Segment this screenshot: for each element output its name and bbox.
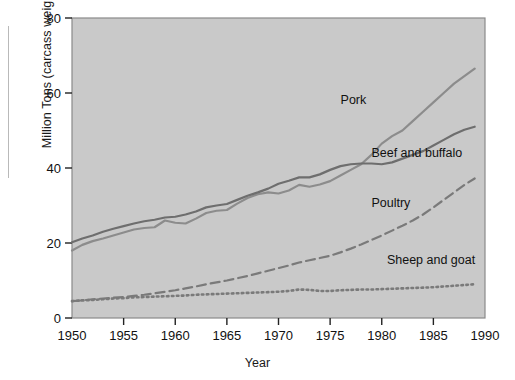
series-label-0: Pork <box>341 93 367 107</box>
y-tick-label: 60 <box>47 86 61 101</box>
y-tick-label: 80 <box>47 11 61 26</box>
y-tick-label: 20 <box>47 236 61 251</box>
x-tick-label: 1970 <box>264 328 293 343</box>
y-tick-label: 0 <box>54 311 61 326</box>
plot-background <box>72 18 485 318</box>
x-tick-label: 1980 <box>367 328 396 343</box>
series-label-1: Beef and buffalo <box>371 146 462 160</box>
series-label-3: Sheep and goat <box>387 253 476 267</box>
line-chart-svg: 020406080 195019551960196519701975198019… <box>0 0 515 380</box>
y-axis-ticks: 020406080 <box>47 11 72 326</box>
x-tick-label: 1990 <box>471 328 500 343</box>
x-tick-label: 1975 <box>316 328 345 343</box>
x-tick-label: 1965 <box>212 328 241 343</box>
x-axis-ticks: 195019551960196519701975198019851990 <box>58 318 500 343</box>
x-tick-label: 1960 <box>161 328 190 343</box>
x-tick-label: 1985 <box>419 328 448 343</box>
chart-figure: Million Tons (carcass weight) Year 02040… <box>0 0 515 380</box>
plot-area-wrapper: 020406080 195019551960196519701975198019… <box>0 0 515 380</box>
x-tick-label: 1955 <box>109 328 138 343</box>
series-label-2: Poultry <box>371 196 411 210</box>
x-tick-label: 1950 <box>58 328 87 343</box>
y-tick-label: 40 <box>47 161 61 176</box>
